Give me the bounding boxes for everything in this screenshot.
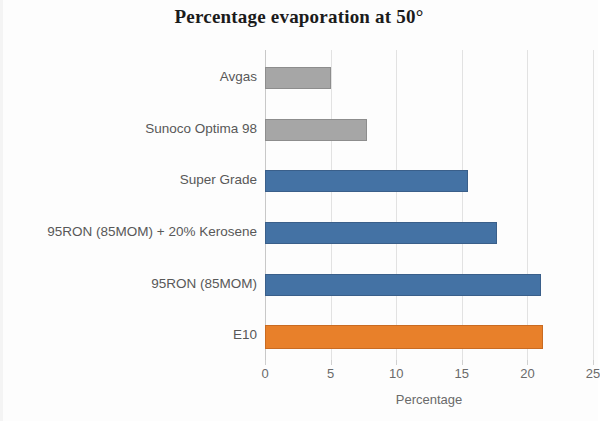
- bar[interactable]: [265, 119, 367, 141]
- tick-mark-20: [527, 360, 528, 365]
- bar[interactable]: [265, 170, 468, 192]
- y-axis-category-labels: AvgasSunoco Optima 98Super Grade95RON (8…: [0, 50, 265, 360]
- bar[interactable]: [265, 325, 543, 349]
- tick-mark-15: [462, 360, 463, 365]
- x-tick-label: 15: [455, 366, 469, 381]
- gridline-5: [331, 50, 332, 360]
- gridline-10: [396, 50, 397, 360]
- x-tick-label: 20: [520, 366, 534, 381]
- plot-area: [265, 50, 593, 360]
- tick-mark-25: [593, 360, 594, 365]
- category-label: Avgas: [7, 69, 265, 84]
- gridline-25: [593, 50, 594, 360]
- category-label: E10: [7, 327, 265, 342]
- x-tick-label: 25: [586, 366, 600, 381]
- bar[interactable]: [265, 222, 497, 244]
- x-tick-label: 0: [261, 366, 268, 381]
- tick-mark-10: [396, 360, 397, 365]
- x-axis-tick-labels: 0510152025: [0, 366, 598, 386]
- chart-title: Percentage evaporation at 50°: [0, 6, 598, 28]
- bar[interactable]: [265, 274, 541, 296]
- category-label: 95RON (85MOM) + 20% Kerosene: [7, 224, 265, 239]
- category-label: Super Grade: [7, 172, 265, 187]
- gridline-20: [527, 50, 528, 360]
- bar[interactable]: [265, 67, 331, 89]
- x-tick-label: 5: [327, 366, 334, 381]
- category-label: 95RON (85MOM): [7, 276, 265, 291]
- x-tick-label: 10: [389, 366, 403, 381]
- category-label: Sunoco Optima 98: [7, 121, 265, 136]
- tick-mark-5: [331, 360, 332, 365]
- gridline-15: [462, 50, 463, 360]
- tick-mark-0: [265, 360, 266, 365]
- gridline-0: [265, 50, 266, 360]
- x-axis-title: Percentage: [265, 392, 593, 407]
